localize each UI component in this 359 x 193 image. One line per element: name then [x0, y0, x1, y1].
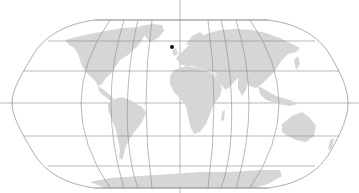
- land-new-zealand: [328, 138, 334, 150]
- world-map[interactable]: [0, 0, 359, 193]
- land-greenland: [140, 24, 164, 42]
- land-madagascar: [221, 110, 225, 121]
- land-british-isles: [172, 48, 178, 56]
- land-india: [238, 78, 248, 96]
- land-australia: [282, 112, 316, 142]
- land-japan: [294, 56, 300, 70]
- location-marker[interactable]: [170, 45, 174, 49]
- land-south-america: [108, 97, 146, 160]
